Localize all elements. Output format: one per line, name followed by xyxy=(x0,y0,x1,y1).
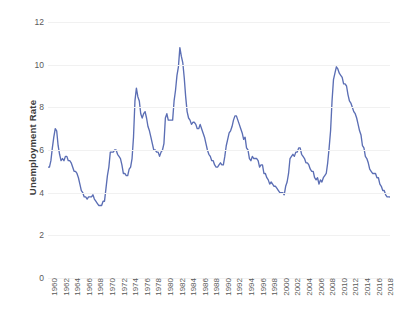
gridline xyxy=(48,107,390,108)
x-axis-tick-1966: 1966 xyxy=(83,238,91,278)
x-axis-tick-1994: 1994 xyxy=(245,238,253,278)
x-axis-tick-labels: 1960196219641966196819701972197419761978… xyxy=(48,278,390,325)
x-axis-tick-2004: 2004 xyxy=(303,238,311,278)
x-axis-tick-1962: 1962 xyxy=(60,238,68,278)
x-axis-tick-1964: 1964 xyxy=(71,238,79,278)
x-axis-tick-1978: 1978 xyxy=(152,238,160,278)
y-axis-tick-2: 2 xyxy=(22,231,44,240)
x-axis-tick-1984: 1984 xyxy=(187,238,195,278)
unemployment-rate-chart: Unemployment Rate 024681012 196019621964… xyxy=(0,0,408,325)
x-axis-tick-1982: 1982 xyxy=(176,238,184,278)
x-axis-tick-1990: 1990 xyxy=(222,238,230,278)
x-axis-tick-2014: 2014 xyxy=(361,238,369,278)
x-axis-tick-1970: 1970 xyxy=(106,238,114,278)
y-axis-tick-0: 0 xyxy=(22,274,44,283)
y-axis-tick-10: 10 xyxy=(22,61,44,70)
x-axis-tick-1988: 1988 xyxy=(210,238,218,278)
x-axis-tick-1998: 1998 xyxy=(268,238,276,278)
x-axis-tick-1996: 1996 xyxy=(257,238,265,278)
x-axis-tick-1980: 1980 xyxy=(164,238,172,278)
y-axis-tick-8: 8 xyxy=(22,103,44,112)
x-axis-tick-2000: 2000 xyxy=(280,238,288,278)
x-axis-tick-1976: 1976 xyxy=(141,238,149,278)
x-axis-tick-1974: 1974 xyxy=(129,238,137,278)
x-axis-tick-1968: 1968 xyxy=(94,238,102,278)
x-axis-tick-2016: 2016 xyxy=(373,238,381,278)
y-axis-tick-4: 4 xyxy=(22,189,44,198)
x-axis-tick-2012: 2012 xyxy=(349,238,357,278)
x-axis-tick-1960: 1960 xyxy=(48,238,56,278)
x-axis-tick-1986: 1986 xyxy=(199,238,207,278)
x-axis-tick-2018: 2018 xyxy=(384,238,392,278)
gridline xyxy=(48,65,390,66)
y-axis-tick-labels: 024681012 xyxy=(22,0,44,325)
series-polyline xyxy=(48,48,390,206)
gridline xyxy=(48,193,390,194)
x-axis-tick-2006: 2006 xyxy=(315,238,323,278)
y-axis-tick-12: 12 xyxy=(22,18,44,27)
x-axis-tick-2010: 2010 xyxy=(338,238,346,278)
gridline xyxy=(48,235,390,236)
gridline xyxy=(48,150,390,151)
x-axis-tick-2008: 2008 xyxy=(326,238,334,278)
x-axis-tick-1992: 1992 xyxy=(233,238,241,278)
gridline xyxy=(48,22,390,23)
x-axis-tick-1972: 1972 xyxy=(118,238,126,278)
x-axis-tick-2002: 2002 xyxy=(291,238,299,278)
y-axis-tick-6: 6 xyxy=(22,146,44,155)
